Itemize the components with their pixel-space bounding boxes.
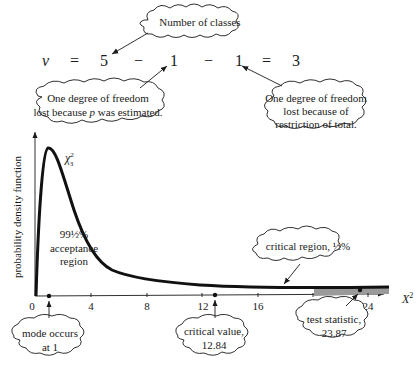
callout-line-1: mode occurs <box>22 327 78 339</box>
callout-line-2: lost because of <box>283 105 349 117</box>
callout-line-2: at 1 <box>42 341 58 353</box>
equation-term-classes: 5 <box>100 52 108 69</box>
tick-label: 16 <box>253 300 265 312</box>
equation-term-estimated: 1 <box>170 52 178 69</box>
tick-label: 12 <box>198 300 209 312</box>
callout-number-of-classes: Number of classes <box>112 4 241 54</box>
callout-line-1: One degree of freedom <box>47 92 149 104</box>
callout-line-1: One degree of freedom <box>265 92 367 104</box>
equation-term-restriction: 1 <box>235 52 243 69</box>
arrow-to-second-1 <box>242 66 282 86</box>
chi-squared-curve <box>36 148 389 296</box>
arrow-to-5 <box>112 33 148 54</box>
callout-test-statistic: test statistic, 23.87 <box>296 294 368 339</box>
critical-value-point <box>213 293 217 297</box>
callout-p-estimated: One degree of freedom lost because p was… <box>33 66 167 123</box>
equation-equals-1: = <box>70 52 79 69</box>
tick-label: 0 <box>29 300 35 312</box>
callout-mode: mode occurs at 1 <box>12 301 84 355</box>
acceptance-word: acceptance <box>50 242 98 254</box>
tick-label: 4 <box>88 300 94 312</box>
callout-critical-region: critical region, ½% <box>252 226 350 284</box>
callout-line-3: restriction of total. <box>275 118 357 130</box>
x-axis-label: X2 <box>401 291 413 306</box>
test-statistic-point <box>358 288 362 292</box>
callout-text: critical region, ½% <box>266 240 350 252</box>
chi-squared-diagram: ν = 5 − 1 − 1 = 3 Number of classes One … <box>0 0 418 371</box>
equation-result: 3 <box>292 52 300 69</box>
arrow-to-critical-region <box>284 264 300 284</box>
callout-line-2: 12.84 <box>202 339 227 351</box>
callout-critical-value: critical value, 12.84 <box>176 300 248 355</box>
mode-point <box>47 294 51 298</box>
callout-line-1: critical value, <box>184 325 244 337</box>
acceptance-percent: 99½% <box>60 228 88 240</box>
callout-restriction-of-total: One degree of freedom lost because of re… <box>242 66 367 130</box>
callout-line-1: test statistic, <box>307 313 362 325</box>
equation-equals-2: = <box>262 52 271 69</box>
equation-minus-2: − <box>204 52 213 69</box>
curve-label: χ23 <box>64 151 74 168</box>
y-axis-label: probability density function <box>11 155 23 278</box>
equation-minus-1: − <box>134 52 143 69</box>
callout-text: Number of classes <box>159 16 240 28</box>
tick-label: 8 <box>144 300 150 312</box>
callout-line-2: lost because p was estimated. <box>33 106 162 118</box>
region-word: region <box>60 255 89 267</box>
callout-line-2: 23.87 <box>322 327 347 339</box>
equation-lhs: ν <box>42 52 50 69</box>
